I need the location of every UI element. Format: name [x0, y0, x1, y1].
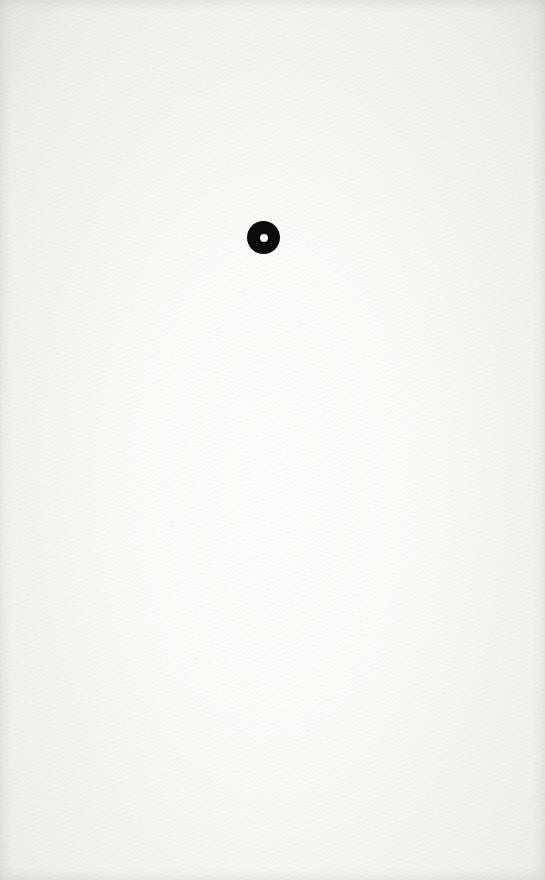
blank-paper-page — [0, 0, 545, 880]
ring-center-hole — [260, 234, 268, 242]
ring-icon — [247, 221, 280, 254]
